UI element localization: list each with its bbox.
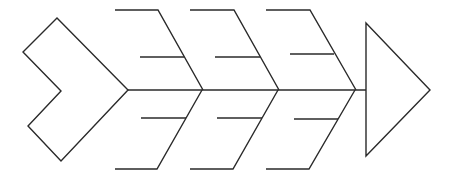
fish-head xyxy=(366,23,430,156)
bone-top-3 xyxy=(266,10,356,90)
bone-bottom-3 xyxy=(266,90,355,169)
fish-tail xyxy=(23,18,128,161)
bone-top-2 xyxy=(190,10,279,90)
fishbone-diagram xyxy=(0,0,453,180)
bone-bottom-2 xyxy=(190,90,278,169)
bone-bottom-1 xyxy=(115,90,202,169)
bone-top-1 xyxy=(115,10,203,90)
